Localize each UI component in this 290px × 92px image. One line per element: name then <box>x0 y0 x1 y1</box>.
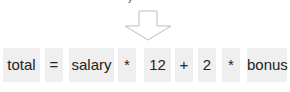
token-multiply-1: * <box>118 48 136 82</box>
token-bonus: bonus <box>247 48 287 82</box>
token-equals: = <box>45 48 63 82</box>
token-2: 2 <box>198 48 216 82</box>
top-text-fragment: y <box>128 0 134 2</box>
down-arrow-icon <box>123 10 173 42</box>
token-multiply-2: * <box>222 48 240 82</box>
token-salary: salary <box>69 48 114 82</box>
token-12: 12 <box>144 48 171 82</box>
token-total: total <box>3 48 40 82</box>
token-plus: + <box>175 48 193 82</box>
